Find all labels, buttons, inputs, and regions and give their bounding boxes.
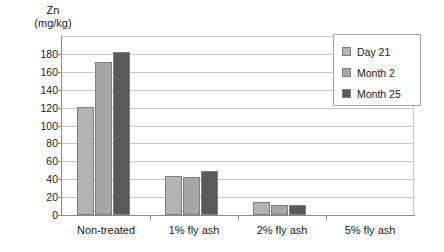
x-axis-tick-label: 2% fly ash <box>238 224 326 236</box>
legend-swatch-icon <box>342 68 351 77</box>
bar <box>201 171 218 215</box>
x-axis-separator <box>326 215 327 220</box>
legend-swatch-icon <box>342 47 351 56</box>
y-axis-tick-label: 40 <box>14 173 58 185</box>
bar <box>95 62 112 215</box>
y-axis-title: Zn (mg/kg) <box>18 4 88 30</box>
y-axis-tick-label: 60 <box>14 155 58 167</box>
y-axis-tick-label: 180 <box>14 48 58 60</box>
x-axis-tick-label: 1% fly ash <box>150 224 238 236</box>
y-axis-tick-label: 0 <box>14 209 58 221</box>
y-axis-title-line2: (mg/kg) <box>18 17 88 30</box>
y-axis-tick-label: 160 <box>14 66 58 78</box>
legend-item-label: Month 25 <box>357 88 401 100</box>
bar <box>165 176 182 215</box>
legend-item-label: Month 2 <box>357 67 395 79</box>
bar-group <box>238 36 326 215</box>
y-axis-tick-label: 120 <box>14 102 58 114</box>
y-axis-tick-label: 20 <box>14 191 58 203</box>
bar <box>113 52 130 215</box>
x-axis-separator <box>238 215 239 220</box>
bar <box>183 177 200 215</box>
x-axis-tick-label: Non-treated <box>62 224 150 236</box>
bar-chart: Zn (mg/kg) 020406080100120140160180 Non-… <box>0 0 444 252</box>
bar <box>253 202 270 215</box>
bar-group <box>150 36 238 215</box>
legend-item: Month 25 <box>342 83 420 104</box>
x-axis-tick-label: 5% fly ash <box>326 224 414 236</box>
bar <box>271 205 288 215</box>
y-axis-tick-mark <box>57 215 62 216</box>
legend-item-label: Day 21 <box>357 46 390 58</box>
bar <box>289 205 306 215</box>
y-axis-tick-label: 100 <box>14 120 58 132</box>
legend-swatch-icon <box>342 89 351 98</box>
y-axis-title-line1: Zn <box>18 4 88 17</box>
legend-item: Month 2 <box>342 62 420 83</box>
x-axis-separator <box>150 215 151 220</box>
legend-item: Day 21 <box>342 41 420 62</box>
y-axis-tick-label: 80 <box>14 137 58 149</box>
bar-group <box>62 36 150 215</box>
legend: Day 21 Month 2 Month 25 <box>333 34 421 106</box>
bar <box>77 107 94 215</box>
y-axis-tick-label: 140 <box>14 84 58 96</box>
